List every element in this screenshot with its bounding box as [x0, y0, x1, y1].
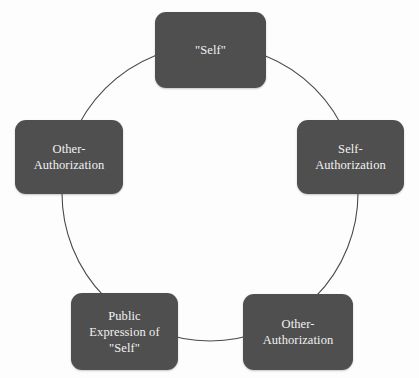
node-other-authorization-left[interactable]: Other- Authorization [15, 120, 123, 194]
node-public-expression-of-self[interactable]: Public Expression of "Self" [71, 293, 178, 370]
node-self-authorization[interactable]: Self- Authorization [297, 120, 404, 194]
cycle-diagram: "Self" Self- Authorization Other- Author… [0, 0, 419, 378]
node-self-authorization-label: Self- Authorization [309, 141, 392, 173]
node-other-authorization-bottom-right-label: Other- Authorization [257, 316, 340, 348]
node-other-authorization-left-label: Other- Authorization [28, 141, 111, 173]
node-public-expression-of-self-label: Public Expression of "Self" [83, 308, 165, 356]
node-self[interactable]: "Self" [155, 12, 266, 88]
node-other-authorization-bottom-right[interactable]: Other- Authorization [243, 294, 353, 370]
node-self-label: "Self" [189, 42, 232, 58]
